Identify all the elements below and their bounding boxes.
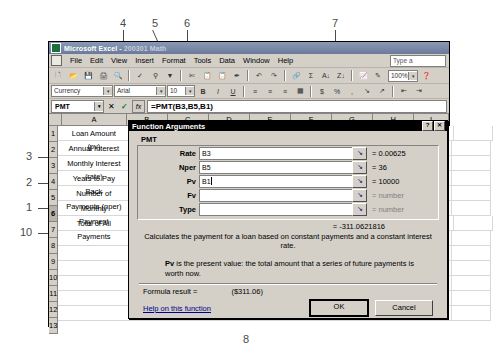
collapse-dialog-icon[interactable]: ↘ bbox=[352, 161, 367, 174]
cell-i10[interactable] bbox=[452, 261, 491, 276]
decrease-decimal-icon[interactable]: ↗ bbox=[375, 84, 389, 98]
percent-icon[interactable]: % bbox=[330, 84, 344, 98]
increase-decimal-icon[interactable]: ↘ bbox=[360, 84, 374, 98]
style-combo[interactable]: Currency ▾ bbox=[51, 85, 113, 97]
merge-cells-icon[interactable]: ▦ bbox=[293, 84, 307, 98]
align-center-icon[interactable]: ≡ bbox=[263, 84, 277, 98]
insert-function-icon[interactable]: fx bbox=[132, 100, 145, 113]
font-combo[interactable]: Arial ▾ bbox=[114, 85, 166, 97]
collapse-dialog-icon[interactable]: ↘ bbox=[352, 175, 367, 188]
name-box[interactable]: PMT ▾ bbox=[51, 100, 104, 113]
print-preview-icon[interactable]: 🔍 bbox=[111, 69, 125, 83]
row-header-1[interactable]: 1 bbox=[49, 126, 58, 142]
argument-input-pv[interactable]: B1 bbox=[199, 175, 352, 188]
save-icon[interactable]: 💾 bbox=[81, 69, 95, 83]
drawing-icon[interactable]: ✎ bbox=[371, 69, 385, 83]
menu-item-help[interactable]: Help bbox=[274, 56, 297, 65]
row-header-12[interactable]: 12 bbox=[49, 302, 58, 318]
cell-a11[interactable] bbox=[58, 276, 130, 291]
cell-a12[interactable] bbox=[58, 291, 130, 306]
cell-i6[interactable] bbox=[452, 201, 491, 216]
format-painter-icon[interactable]: ✒ bbox=[230, 69, 244, 83]
chevron-down-icon[interactable]: ▾ bbox=[156, 87, 165, 95]
print-icon[interactable]: 🖨 bbox=[96, 69, 110, 83]
cell-i3[interactable] bbox=[452, 156, 491, 171]
cell-i13[interactable] bbox=[452, 306, 491, 321]
cell-a13[interactable] bbox=[58, 306, 130, 321]
chevron-down-icon[interactable]: ▾ bbox=[94, 102, 103, 111]
row-header-6[interactable]: 6 bbox=[49, 206, 58, 222]
document-control-icon[interactable] bbox=[51, 55, 62, 66]
new-icon[interactable]: 🗋 bbox=[51, 69, 65, 83]
cancel-formula-icon[interactable]: ✕ bbox=[106, 101, 117, 112]
select-all-corner[interactable] bbox=[49, 114, 62, 126]
cell-i5[interactable] bbox=[452, 186, 491, 201]
increase-indent-icon[interactable]: ⇥ bbox=[412, 84, 426, 98]
row-header-4[interactable]: 4 bbox=[49, 174, 58, 190]
argument-input-rate[interactable]: B3 bbox=[199, 147, 352, 160]
collapse-dialog-icon[interactable]: ↘ bbox=[352, 189, 367, 202]
hyperlink-icon[interactable]: 🔗 bbox=[289, 69, 303, 83]
menu-item-insert[interactable]: Insert bbox=[131, 56, 158, 65]
underline-icon[interactable]: U bbox=[226, 84, 240, 98]
help-button[interactable]: ? bbox=[422, 121, 433, 131]
copy-icon[interactable]: 📋 bbox=[200, 69, 214, 83]
cell-i11[interactable] bbox=[452, 276, 491, 291]
dialog-title-bar[interactable]: Function Arguments ? ✕ bbox=[129, 121, 447, 131]
undo-icon[interactable]: ↶ bbox=[252, 69, 266, 83]
currency-icon[interactable]: $ bbox=[315, 84, 329, 98]
enter-formula-icon[interactable]: ✓ bbox=[119, 101, 130, 112]
redo-icon[interactable]: ↷ bbox=[267, 69, 281, 83]
research-icon[interactable]: ⚲ bbox=[148, 69, 162, 83]
cell-i1[interactable] bbox=[454, 126, 493, 141]
menu-item-tools[interactable]: Tools bbox=[190, 56, 216, 65]
chevron-down-icon[interactable]: ▾ bbox=[103, 87, 112, 95]
cancel-button[interactable]: Cancel bbox=[375, 300, 433, 316]
menu-item-edit[interactable]: Edit bbox=[86, 56, 107, 65]
cell-a9[interactable] bbox=[58, 246, 130, 261]
menu-item-format[interactable]: Format bbox=[158, 56, 190, 65]
column-header-a[interactable]: A bbox=[62, 114, 126, 126]
row-header-8[interactable]: 8 bbox=[49, 238, 58, 254]
menu-item-data[interactable]: Data bbox=[215, 56, 239, 65]
cell-i2[interactable] bbox=[452, 141, 491, 156]
menu-item-file[interactable]: File bbox=[66, 56, 86, 65]
chevron-down-icon[interactable]: ▾ bbox=[185, 87, 194, 95]
filter-icon[interactable]: ▼ bbox=[163, 69, 177, 83]
align-left-icon[interactable]: ≡ bbox=[248, 84, 262, 98]
row-header-2[interactable]: 2 bbox=[49, 142, 58, 158]
comma-icon[interactable]: , bbox=[345, 84, 359, 98]
collapse-dialog-icon[interactable]: ↘ bbox=[352, 147, 367, 160]
row-header-11[interactable]: 11 bbox=[49, 286, 58, 302]
row-header-13[interactable]: 13 bbox=[49, 318, 58, 334]
decrease-indent-icon[interactable]: ⇤ bbox=[397, 84, 411, 98]
row-header-3[interactable]: 3 bbox=[49, 158, 58, 174]
autosum-icon[interactable]: Σ bbox=[304, 69, 318, 83]
formula-input[interactable]: =PMT(B3,B5,B1) bbox=[147, 100, 447, 113]
open-icon[interactable]: 📂 bbox=[66, 69, 80, 83]
argument-input-type[interactable] bbox=[199, 203, 352, 216]
italic-icon[interactable]: I bbox=[211, 84, 225, 98]
row-header-5[interactable]: 5 bbox=[49, 190, 58, 206]
argument-input-nper[interactable]: B5 bbox=[199, 161, 352, 174]
menu-item-view[interactable]: View bbox=[107, 56, 131, 65]
cell-i4[interactable] bbox=[452, 171, 491, 186]
bold-icon[interactable]: B bbox=[196, 84, 210, 98]
title-bar[interactable]: Microsoft Excel - 200301 Math bbox=[49, 42, 449, 54]
row-header-10[interactable]: 10 bbox=[49, 270, 58, 286]
chart-icon[interactable]: 📈 bbox=[356, 69, 370, 83]
help-icon[interactable]: ❓ bbox=[419, 69, 433, 83]
paste-icon[interactable]: 📋 bbox=[215, 69, 229, 83]
close-icon[interactable]: ✕ bbox=[434, 121, 445, 131]
cell-i12[interactable] bbox=[452, 291, 491, 306]
collapse-dialog-icon[interactable]: ↘ bbox=[352, 203, 367, 216]
zoom-combo[interactable]: 100% ▾ bbox=[388, 70, 418, 82]
sort-desc-icon[interactable]: Z↓ bbox=[334, 69, 348, 83]
sort-asc-icon[interactable]: A↓ bbox=[319, 69, 333, 83]
chevron-down-icon[interactable]: ▾ bbox=[408, 72, 417, 80]
align-right-icon[interactable]: ≡ bbox=[278, 84, 292, 98]
argument-input-fv[interactable] bbox=[199, 189, 352, 202]
cell-i7[interactable] bbox=[454, 216, 493, 231]
row-header-9[interactable]: 9 bbox=[49, 254, 58, 270]
cell-a10[interactable] bbox=[58, 261, 130, 276]
